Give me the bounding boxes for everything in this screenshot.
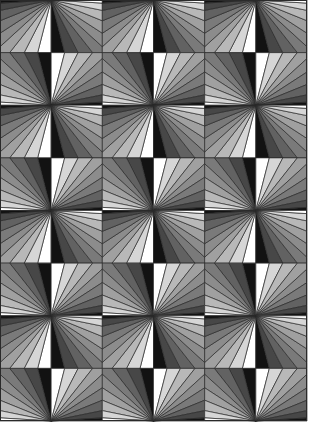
quilt-tiles (0, 0, 307, 421)
fan-quilt-pattern (0, 0, 312, 427)
